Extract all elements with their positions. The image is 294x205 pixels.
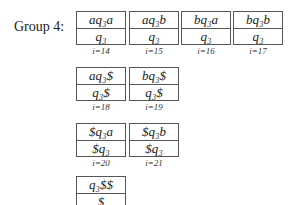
domino-top: bq₃$ — [130, 68, 178, 85]
domino-cell: bq₃bq₃i=17 — [233, 11, 283, 56]
domino-cell: aq₃aq₃i=14 — [76, 11, 126, 56]
domino-index: i=21 — [129, 158, 179, 168]
domino-box: $q₃a$q₃ — [76, 123, 126, 157]
domino-bottom: $ — [77, 194, 125, 205]
domino-top: $q₃b — [130, 124, 178, 141]
domino-bottom: $q₃ — [130, 141, 178, 157]
domino-top: aq₃b — [130, 12, 178, 29]
domino-index: i=19 — [129, 102, 179, 112]
domino-bottom: q₃ — [182, 29, 230, 45]
domino-cell: q₃$$$i=22 — [76, 176, 126, 205]
domino-cell: aq₃bq₃i=15 — [129, 11, 179, 56]
domino-box: aq₃aq₃ — [76, 11, 126, 45]
domino-top: bq₃b — [234, 12, 282, 29]
domino-bottom: q₃ — [130, 29, 178, 45]
domino-cell: $q₃b$q₃i=21 — [129, 123, 179, 168]
domino-box: $q₃b$q₃ — [129, 123, 179, 157]
domino-index: i=17 — [233, 46, 283, 56]
domino-cell: $q₃a$q₃i=20 — [76, 123, 126, 168]
domino-top: aq₃$ — [77, 68, 125, 85]
domino-bottom: q₃ — [234, 29, 282, 45]
domino-box: bq₃$q₃$ — [129, 67, 179, 101]
domino-index: i=16 — [181, 46, 231, 56]
domino-top: aq₃a — [77, 12, 125, 29]
domino-cell: aq₃$q₃$i=18 — [76, 67, 126, 112]
domino-bottom: $q₃ — [77, 141, 125, 157]
domino-bottom: q₃$ — [130, 85, 178, 101]
domino-top: $q₃a — [77, 124, 125, 141]
domino-box: q₃$$$ — [76, 176, 126, 205]
domino-index: i=15 — [129, 46, 179, 56]
domino-bottom: q₃$ — [77, 85, 125, 101]
domino-index: i=20 — [76, 158, 126, 168]
domino-top: bq₃a — [182, 12, 230, 29]
domino-box: bq₃bq₃ — [233, 11, 283, 45]
domino-box: aq₃$q₃$ — [76, 67, 126, 101]
domino-index: i=14 — [76, 46, 126, 56]
domino-box: bq₃aq₃ — [181, 11, 231, 45]
group-label: Group 4: — [14, 19, 64, 35]
domino-cell: bq₃$q₃$i=19 — [129, 67, 179, 112]
domino-box: aq₃bq₃ — [129, 11, 179, 45]
domino-bottom: q₃ — [77, 29, 125, 45]
domino-top: q₃$$ — [77, 177, 125, 194]
domino-index: i=18 — [76, 102, 126, 112]
domino-cell: bq₃aq₃i=16 — [181, 11, 231, 56]
